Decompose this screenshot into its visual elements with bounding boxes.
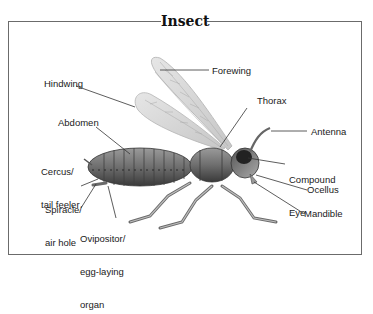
antenna-shape — [250, 128, 270, 152]
label-forewing: Forewing — [212, 65, 251, 76]
label-hindwing: Hindwing — [44, 78, 83, 89]
label-ocellus: Ocellus — [307, 184, 339, 195]
label-spiracle-line2: air hole — [45, 237, 82, 248]
label-ovipositor-line3: organ — [80, 299, 125, 310]
abdomen-shape — [88, 148, 192, 186]
label-spiracle: Spiracle/ air hole — [45, 182, 82, 259]
label-cercus-line1: Cercus/ — [41, 166, 80, 177]
label-thorax: Thorax — [257, 95, 287, 106]
label-antenna: Antenna — [311, 126, 346, 137]
head-shape — [231, 148, 259, 184]
label-ovipositor: Ovipositor/ egg-laying organ — [80, 211, 125, 314]
label-ovipositor-line2: egg-laying — [80, 266, 125, 277]
label-mandible: Mandible — [304, 208, 343, 219]
label-abdomen: Abdomen — [58, 117, 99, 128]
thorax-shape — [190, 148, 234, 182]
label-spiracle-line1: Spiracle/ — [45, 204, 82, 215]
label-ovipositor-line1: Ovipositor/ — [80, 233, 125, 244]
